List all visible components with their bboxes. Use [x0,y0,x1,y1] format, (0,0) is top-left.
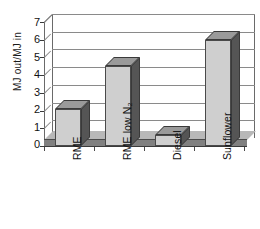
y-tick-label-0: 0 [20,138,40,150]
plot-area [44,22,247,146]
bar-chart: MJ out/MJ in 7 6 5 4 3 2 1 0 [0,0,260,229]
y-tick-riser-4 [44,69,51,76]
x-tick-label-rme: RME [71,136,83,160]
y-tick-label-7: 7 [20,16,40,28]
y-tick-2 [40,111,44,112]
y-tick-label-4: 4 [20,68,40,80]
y-tick-3 [40,93,44,94]
x-tick-4 [244,147,245,151]
y-tick-riser-7 [44,16,51,23]
y-tick-riser-3 [44,87,51,94]
x-tick-label-rme-low-n2: RME low N₂ [121,102,133,160]
y-tick-1 [40,128,44,129]
x-tick-0 [44,147,45,151]
x-tick-2 [144,147,145,151]
y-tick-riser-2 [44,104,51,111]
y-tick-label-3: 3 [20,86,40,98]
gridline-7 [52,14,255,15]
y-tick-label-6: 6 [20,33,40,45]
x-tick-label-diesel: Diesel [171,130,183,160]
y-tick-label-2: 2 [20,103,40,115]
x-tick-label-sunflower: Sunflower [221,112,233,160]
y-tick-riser-5 [44,51,51,58]
x-tick-3 [194,147,195,151]
y-tick-label-5: 5 [20,51,40,63]
y-tick-5 [40,57,44,58]
y-tick-label-1: 1 [20,121,40,133]
x-tick-1 [94,147,95,151]
y-tick-6 [40,40,44,41]
y-tick-7 [40,22,44,23]
y-tick-riser-1 [44,122,51,129]
y-tick-riser-6 [44,33,51,40]
y-tick-4 [40,75,44,76]
